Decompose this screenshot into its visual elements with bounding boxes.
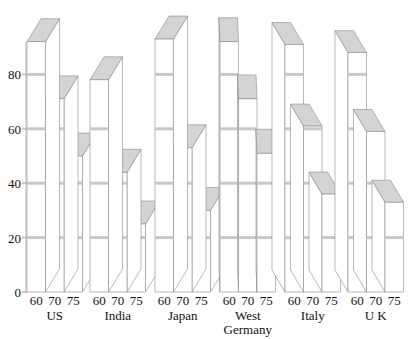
x-tick-label: 75 (325, 293, 338, 308)
y-tick-mark (22, 291, 27, 293)
group-label: U K (365, 308, 388, 323)
x-tick-label: 60 (30, 293, 43, 308)
y-tick-label: 60 (8, 122, 21, 137)
bar (372, 180, 404, 292)
x-tick-label: 75 (67, 293, 80, 308)
x-tick-label: 75 (388, 293, 401, 308)
bar-group-uk (335, 31, 404, 292)
bar-chart-3d: 020406080 607075US607075India607075Japan… (0, 0, 416, 339)
bar-group-japan (155, 16, 225, 292)
y-tick-label: 0 (15, 285, 22, 300)
y-tick-label: 80 (8, 67, 21, 82)
bar-group-west-germany (219, 18, 276, 292)
x-tick-label: 75 (260, 293, 273, 308)
group-label: US (46, 308, 63, 323)
x-tick-label: 60 (351, 293, 364, 308)
bar (155, 16, 188, 292)
chart: 020406080 607075US607075India607075Japan… (0, 0, 416, 339)
group-label: India (104, 308, 131, 323)
y-tick-mark (22, 128, 27, 130)
y-tick-label: 40 (8, 176, 21, 191)
x-tick-label: 70 (306, 293, 319, 308)
bars-layer (27, 16, 404, 292)
y-tick-mark (22, 182, 27, 184)
x-tick-label: 70 (111, 293, 124, 308)
bar-group-italy (272, 22, 341, 292)
group-label: Japan (168, 308, 198, 323)
bar-group-us (27, 19, 97, 292)
x-tick-label: 60 (223, 293, 236, 308)
y-axis: 020406080 (8, 42, 27, 300)
y-tick-label: 20 (8, 231, 21, 246)
group-label: Germany (224, 322, 273, 337)
y-tick-mark (22, 237, 27, 239)
bar-group-india (90, 57, 160, 292)
bar (238, 75, 258, 292)
x-tick-label: 70 (241, 293, 254, 308)
bar (219, 18, 239, 292)
x-tick-label: 70 (176, 293, 189, 308)
x-tick-label: 70 (48, 293, 61, 308)
bar (90, 57, 123, 292)
x-tick-label: 75 (130, 293, 143, 308)
x-tick-label: 60 (158, 293, 171, 308)
group-label: West (235, 308, 261, 323)
y-tick-mark (22, 73, 27, 75)
x-tick-label: 60 (93, 293, 106, 308)
bar (27, 19, 60, 292)
x-tick-label: 60 (288, 293, 301, 308)
x-axis-labels: 607075US607075India607075Japan607075West… (30, 293, 401, 337)
x-tick-label: 75 (195, 293, 208, 308)
group-label: Italy (301, 308, 325, 323)
x-tick-label: 70 (369, 293, 382, 308)
